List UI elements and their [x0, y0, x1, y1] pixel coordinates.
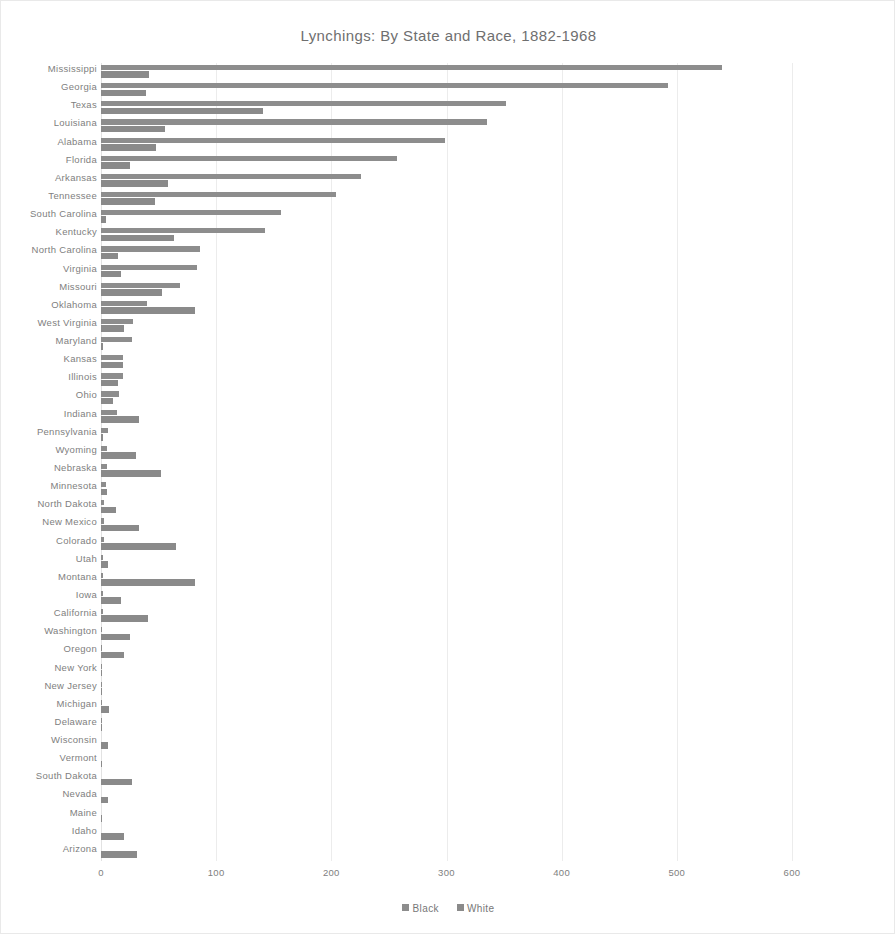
- y-axis-label: Michigan: [3, 699, 97, 709]
- bar-white[interactable]: [101, 597, 121, 604]
- bar-white[interactable]: [101, 90, 146, 97]
- bar-black[interactable]: [101, 174, 361, 179]
- bar-white[interactable]: [101, 761, 102, 768]
- bar-black[interactable]: [101, 355, 123, 360]
- bar-black[interactable]: [101, 664, 102, 669]
- bar-black[interactable]: [101, 591, 103, 596]
- bar-white[interactable]: [101, 815, 102, 822]
- bar-black[interactable]: [101, 301, 147, 306]
- bar-white[interactable]: [101, 271, 121, 278]
- bar-white[interactable]: [101, 216, 106, 223]
- bar-white[interactable]: [101, 452, 136, 459]
- y-axis-label: South Dakota: [3, 771, 97, 781]
- y-axis-labels: MississippiGeorgiaTexasLouisianaAlabamaF…: [1, 63, 97, 861]
- bar-black[interactable]: [101, 65, 722, 70]
- bar-white[interactable]: [101, 325, 124, 332]
- bar-white[interactable]: [101, 634, 130, 641]
- bar-black[interactable]: [101, 228, 265, 233]
- bar-white[interactable]: [101, 670, 102, 677]
- bar-white[interactable]: [101, 362, 123, 369]
- bar-white[interactable]: [101, 489, 107, 496]
- bar-white[interactable]: [101, 525, 139, 532]
- bar-black[interactable]: [101, 627, 102, 632]
- bar-black[interactable]: [101, 555, 103, 560]
- bar-white[interactable]: [101, 71, 149, 78]
- y-axis-label: Oregon: [3, 644, 97, 654]
- bar-black[interactable]: [101, 246, 200, 251]
- bar-black[interactable]: [101, 138, 445, 143]
- y-axis-label: Idaho: [3, 826, 97, 836]
- bar-black[interactable]: [101, 682, 102, 687]
- bar-white[interactable]: [101, 235, 174, 242]
- bar-white[interactable]: [101, 126, 165, 133]
- bar-white[interactable]: [101, 742, 108, 749]
- x-axis-tick-label: 600: [784, 867, 801, 878]
- chart-frame: Lynchings: By State and Race, 1882-1968 …: [0, 0, 895, 934]
- bar-white[interactable]: [101, 343, 103, 350]
- bar-black[interactable]: [101, 410, 117, 415]
- bar-white[interactable]: [101, 307, 195, 314]
- bar-white[interactable]: [101, 108, 263, 115]
- legend-item[interactable]: Black: [402, 902, 438, 914]
- bar-black[interactable]: [101, 718, 102, 723]
- bar-white[interactable]: [101, 706, 109, 713]
- y-axis-label: Nebraska: [3, 463, 97, 473]
- chart-row: [101, 625, 792, 643]
- bar-white[interactable]: [101, 253, 118, 260]
- bar-black[interactable]: [101, 119, 487, 124]
- bar-white[interactable]: [101, 180, 168, 187]
- y-axis-label: Illinois: [3, 372, 97, 382]
- bar-black[interactable]: [101, 518, 104, 523]
- bar-black[interactable]: [101, 500, 104, 505]
- bar-black[interactable]: [101, 464, 107, 469]
- bar-white[interactable]: [101, 470, 161, 477]
- bar-white[interactable]: [101, 797, 108, 804]
- bar-black[interactable]: [101, 391, 119, 396]
- bar-white[interactable]: [101, 543, 176, 550]
- bar-white[interactable]: [101, 579, 195, 586]
- bar-black[interactable]: [101, 373, 123, 378]
- y-axis-label: North Dakota: [3, 499, 97, 509]
- bar-white[interactable]: [101, 652, 124, 659]
- bar-black[interactable]: [101, 446, 107, 451]
- bar-white[interactable]: [101, 162, 130, 169]
- bar-white[interactable]: [101, 289, 162, 296]
- bar-black[interactable]: [101, 283, 180, 288]
- bar-black[interactable]: [101, 210, 281, 215]
- chart-row: [101, 480, 792, 498]
- bar-black[interactable]: [101, 101, 506, 106]
- bar-white[interactable]: [101, 416, 139, 423]
- bar-white[interactable]: [101, 724, 102, 731]
- bar-white[interactable]: [101, 688, 102, 695]
- bar-white[interactable]: [101, 198, 155, 205]
- chart-row: [101, 154, 792, 172]
- bar-white[interactable]: [101, 615, 148, 622]
- bar-black[interactable]: [101, 156, 397, 161]
- bar-black[interactable]: [101, 573, 103, 578]
- bar-black[interactable]: [101, 645, 102, 650]
- bar-black[interactable]: [101, 319, 133, 324]
- chart-row: [101, 807, 792, 825]
- bar-black[interactable]: [101, 192, 336, 197]
- bar-white[interactable]: [101, 507, 116, 514]
- bar-black[interactable]: [101, 83, 668, 88]
- bar-white[interactable]: [101, 833, 124, 840]
- legend-item[interactable]: White: [457, 902, 495, 914]
- bar-white[interactable]: [101, 779, 132, 786]
- bar-black[interactable]: [101, 609, 103, 614]
- bar-white[interactable]: [101, 561, 108, 568]
- chart-row: [101, 698, 792, 716]
- bar-black[interactable]: [101, 537, 104, 542]
- bar-black[interactable]: [101, 700, 102, 705]
- y-axis-label: New York: [3, 663, 97, 673]
- bar-white[interactable]: [101, 144, 156, 151]
- gridline: [792, 63, 793, 861]
- bar-black[interactable]: [101, 428, 108, 433]
- bar-black[interactable]: [101, 482, 106, 487]
- bar-white[interactable]: [101, 380, 118, 387]
- bar-white[interactable]: [101, 434, 103, 441]
- bar-black[interactable]: [101, 337, 132, 342]
- bar-black[interactable]: [101, 265, 197, 270]
- bar-white[interactable]: [101, 398, 113, 405]
- bar-white[interactable]: [101, 851, 137, 858]
